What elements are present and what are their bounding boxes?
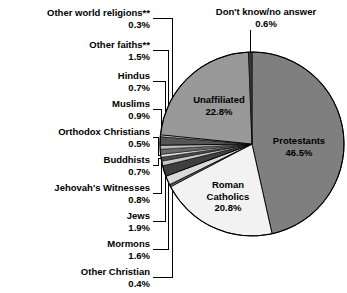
callout-name-other-faiths: Other faiths** [89,39,150,50]
slice-name-unaffiliated: Unaffiliated [193,94,245,105]
callout-name-jews: Jews [127,210,150,221]
slice-pct-unaffiliated: 22.8% [206,105,233,116]
callout-pct-mormons: 1.6% [107,250,150,262]
callout-pct-dont-know: 0.6% [216,18,316,30]
callout-label-buddhists: Buddhists 0.7% [104,154,150,177]
callout-name-dont-know: Don't know/no answer [216,6,316,17]
callout-name-mormons: Mormons [107,238,150,249]
callout-pct-orthodox-christians: 0.5% [58,138,150,150]
slice-name2-roman-catholics: Catholics [207,190,250,201]
callout-pct-other-world-religions: 0.3% [47,19,150,31]
callout-name-other-world-religions: Other world religions** [47,7,150,18]
slice-pct-roman-catholics: 20.8% [215,202,242,213]
callout-label-orthodox-christians: Orthodox Christians 0.5% [58,126,150,149]
callout-pct-buddhists: 0.7% [104,166,150,178]
slice-name-protestants: Protestants [273,135,325,146]
callout-label-jews: Jews 1.9% [127,210,150,233]
callout-name-jehovahs-witnesses: Jehovah's Witnesses [54,182,150,193]
slice-label-roman-catholics: Roman Catholics 20.8% [207,179,250,214]
callout-pct-other-christian: 0.4% [81,278,150,290]
callout-pct-jews: 1.9% [127,222,150,234]
callout-label-mormons: Mormons 1.6% [107,238,150,261]
callout-label-hindus: Hindus 0.7% [118,70,150,93]
callout-label-other-faiths: Other faiths** 1.5% [89,39,150,62]
slice-pct-protestants: 46.5% [286,146,313,157]
callout-name-other-christian: Other Christian [81,266,150,277]
callout-pct-muslims: 0.9% [112,110,150,122]
slice-name-roman-catholics: Roman [212,179,244,190]
callout-name-buddhists: Buddhists [104,154,150,165]
pie-chart-figure: Protestants 46.5%Roman Catholics 20.8%Ot… [0,0,347,293]
callout-label-muslims: Muslims 0.9% [112,98,150,121]
callout-pct-hindus: 0.7% [118,82,150,94]
callout-label-other-christian: Other Christian 0.4% [81,266,150,289]
callout-pct-jehovahs-witnesses: 0.8% [54,194,150,206]
callout-label-other-world-religions: Other world religions** 0.3% [47,7,150,30]
callout-name-hindus: Hindus [118,70,150,81]
callout-label-jehovahs-witnesses: Jehovah's Witnesses 0.8% [54,182,150,205]
callout-label-dont-know: Don't know/no answer 0.6% [216,6,316,29]
slice-label-unaffiliated: Unaffiliated 22.8% [193,94,245,117]
slice-label-protestants: Protestants 46.5% [273,135,325,158]
leader-line-other-christian [153,184,173,277]
leader-line-jews [153,170,167,221]
callout-name-orthodox-christians: Orthodox Christians [58,126,150,137]
callout-name-muslims: Muslims [112,98,150,109]
callout-pct-other-faiths: 1.5% [89,51,150,63]
